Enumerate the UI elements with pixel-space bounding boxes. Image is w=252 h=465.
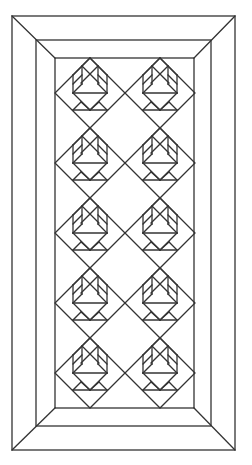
basket-foot (143, 242, 151, 250)
basket-foot (151, 312, 160, 320)
basket-foot (160, 242, 169, 250)
basket-foot (90, 312, 99, 320)
outer-border (12, 16, 235, 450)
quilt-svg (0, 0, 252, 465)
basket-foot (160, 172, 169, 180)
basket-rim-edge (143, 154, 152, 163)
miter-top-right (194, 16, 235, 58)
basket-handle (82, 206, 99, 223)
basket-foot (151, 242, 160, 250)
basket-handle (152, 66, 169, 83)
miter-bottom-right (194, 408, 235, 450)
basket-foot (143, 172, 151, 180)
basket-foot (81, 312, 90, 320)
basket-handle (152, 276, 169, 293)
basket-block (55, 338, 125, 408)
basket-foot (99, 102, 107, 110)
basket-rim-edge (98, 364, 107, 373)
basket-handle (152, 346, 169, 363)
basket-rim-edge (168, 84, 177, 93)
basket-foot (99, 172, 107, 180)
basket-foot (81, 172, 90, 180)
basket-rim-edge (73, 84, 82, 93)
basket-foot (99, 312, 107, 320)
basket-rim-edge (98, 154, 107, 163)
basket-handle (151, 346, 168, 363)
basket-block (55, 58, 125, 128)
basket-foot (143, 382, 151, 390)
basket-handle (82, 136, 99, 153)
basket-rim-edge (98, 224, 107, 233)
basket-foot (90, 382, 99, 390)
basket-foot (90, 102, 99, 110)
basket-block (125, 338, 195, 408)
basket-handle (81, 276, 98, 293)
basket-handle (82, 66, 99, 83)
basket-handle (82, 276, 99, 293)
basket-foot (81, 242, 90, 250)
basket-foot (151, 382, 160, 390)
basket-rim-edge (73, 294, 82, 303)
basket-rim-edge (143, 294, 152, 303)
basket-block (125, 268, 195, 338)
basket-foot (73, 102, 81, 110)
basket-foot (143, 102, 151, 110)
miter-top-left (12, 16, 55, 58)
basket-handle (151, 136, 168, 153)
basket-foot (90, 172, 99, 180)
basket-handle (151, 276, 168, 293)
basket-foot (151, 102, 160, 110)
basket-rim-edge (168, 224, 177, 233)
basket-rim-edge (168, 364, 177, 373)
basket-handle (152, 136, 169, 153)
basket-foot (99, 242, 107, 250)
basket-block (125, 58, 195, 128)
basket-foot (90, 242, 99, 250)
basket-handle (151, 206, 168, 223)
basket-rim-edge (168, 294, 177, 303)
basket-foot (73, 172, 81, 180)
basket-foot (160, 312, 169, 320)
basket-rim-edge (168, 154, 177, 163)
basket-handle (152, 206, 169, 223)
basket-handle (81, 346, 98, 363)
basket-foot (169, 172, 177, 180)
basket-foot (73, 312, 81, 320)
basket-block (55, 128, 125, 198)
basket-foot (160, 102, 169, 110)
border-frames (12, 16, 235, 450)
basket-blocks (55, 58, 195, 408)
basket-foot (169, 102, 177, 110)
basket-block (55, 268, 125, 338)
basket-handle (81, 66, 98, 83)
basket-foot (169, 312, 177, 320)
basket-rim-edge (143, 224, 152, 233)
basket-handle (81, 206, 98, 223)
basket-block (55, 198, 125, 268)
basket-rim-edge (73, 154, 82, 163)
basket-rim-edge (143, 364, 152, 373)
basket-foot (169, 382, 177, 390)
basket-handle (82, 346, 99, 363)
basket-handle (151, 66, 168, 83)
basket-foot (160, 382, 169, 390)
basket-foot (99, 382, 107, 390)
basket-rim-edge (73, 364, 82, 373)
basket-rim-edge (98, 84, 107, 93)
middle-border (36, 40, 211, 426)
miter-bottom-left (12, 408, 55, 450)
basket-foot (73, 382, 81, 390)
quilt-diagram (0, 0, 252, 465)
basket-foot (151, 172, 160, 180)
basket-block (125, 198, 195, 268)
basket-foot (81, 382, 90, 390)
basket-rim-edge (143, 84, 152, 93)
basket-foot (73, 242, 81, 250)
basket-handle (81, 136, 98, 153)
basket-rim-edge (98, 294, 107, 303)
basket-foot (81, 102, 90, 110)
basket-block (125, 128, 195, 198)
basket-rim-edge (73, 224, 82, 233)
basket-foot (169, 242, 177, 250)
basket-foot (143, 312, 151, 320)
